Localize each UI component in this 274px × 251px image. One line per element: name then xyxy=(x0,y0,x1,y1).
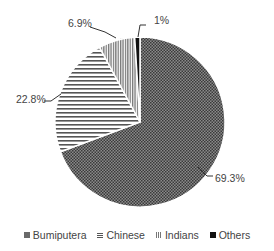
legend-item-chinese: Chinese xyxy=(97,229,145,241)
legend: Bumiputera Chinese Indians Others xyxy=(0,229,274,241)
legend-item-others: Others xyxy=(210,229,251,241)
pie-chart: 69.3%22.8%6.9%1% xyxy=(0,0,274,225)
legend-label: Others xyxy=(219,229,251,241)
indians-swatch-icon xyxy=(156,232,162,238)
legend-item-indians: Indians xyxy=(156,229,199,241)
chinese-swatch-icon xyxy=(97,232,103,238)
leader-line xyxy=(138,25,146,37)
bumiputera-swatch-icon xyxy=(24,232,30,238)
leader-line xyxy=(90,27,116,38)
data-label: 22.8% xyxy=(16,93,46,105)
legend-item-bumiputera: Bumiputera xyxy=(24,229,87,241)
legend-label: Bumiputera xyxy=(33,229,87,241)
pie-slices xyxy=(55,37,225,207)
data-label: 6.9% xyxy=(68,17,92,29)
data-label: 69.3% xyxy=(215,172,245,184)
legend-label: Indians xyxy=(165,229,199,241)
legend-label: Chinese xyxy=(106,229,145,241)
others-swatch-icon xyxy=(210,232,216,238)
data-label: 1% xyxy=(154,14,169,26)
